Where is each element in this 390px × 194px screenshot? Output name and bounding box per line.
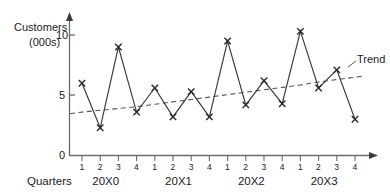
x-tick-label: 2: [171, 163, 176, 172]
x-tick-label: 3: [189, 163, 194, 172]
x-tick-label: 2: [316, 163, 321, 172]
x-tick-label: 2: [243, 163, 248, 172]
x-axis-title: Quarters: [27, 176, 72, 188]
y-tick-label-0: 0: [59, 150, 65, 161]
year-group-label: 20X2: [238, 176, 265, 188]
x-tick-label: 2: [98, 163, 103, 172]
x-tick-label: 4: [280, 163, 285, 172]
x-axis-ticks: [82, 156, 355, 162]
x-tick-label: 4: [353, 163, 358, 172]
x-tick-label: 1: [298, 163, 303, 172]
x-tick-label: 4: [134, 163, 139, 172]
x-tick-label: 3: [262, 163, 267, 172]
year-group-label: 20X1: [165, 176, 192, 188]
x-tick-label: 3: [116, 163, 121, 172]
trend-leader-line: [348, 61, 356, 67]
data-series-line: [82, 31, 355, 127]
x-tick-label: 1: [152, 163, 157, 172]
x-axis: [70, 152, 379, 159]
x-tick-label: 4: [207, 163, 212, 172]
x-tick-label: 3: [334, 163, 339, 172]
x-tick-label: 1: [225, 163, 230, 172]
y-tick-label-5: 5: [59, 90, 65, 101]
trend-label: Trend: [357, 54, 385, 65]
year-group-label: 20X0: [92, 176, 119, 188]
x-tick-label: 1: [80, 163, 85, 172]
y-tick-label-10: 10: [56, 30, 68, 41]
line-chart: Customers (000s) 10 5 0 Quarters Trend 1…: [0, 0, 390, 194]
year-group-label: 20X3: [311, 176, 338, 188]
